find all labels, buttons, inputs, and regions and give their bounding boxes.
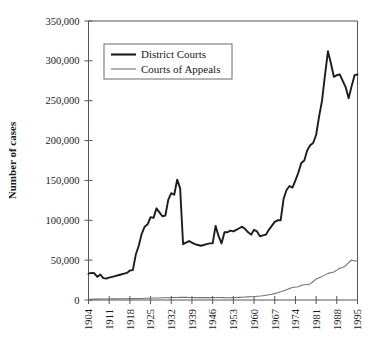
y-axis-title: Number of cases bbox=[6, 121, 18, 199]
legend-label-courts-of-appeals: Courts of Appeals bbox=[141, 63, 220, 75]
y-tick-label: 350,000 bbox=[45, 16, 79, 27]
x-tick-label: 1960 bbox=[249, 309, 260, 330]
series-line-courts-of-appeals bbox=[89, 260, 358, 299]
y-tick-label: 300,000 bbox=[45, 55, 79, 66]
line-chart: 050,000100,000150,000200,000250,000300,0… bbox=[0, 0, 373, 352]
x-tick-label: 1981 bbox=[311, 309, 322, 330]
x-tick-label: 1953 bbox=[228, 309, 239, 330]
y-axis-tick-labels: 050,000100,000150,000200,000250,000300,0… bbox=[45, 16, 79, 306]
x-tick-label: 1995 bbox=[352, 309, 363, 330]
x-tick-label: 1925 bbox=[145, 309, 156, 330]
x-tick-label: 1911 bbox=[104, 309, 115, 330]
x-tick-label: 1967 bbox=[270, 309, 281, 330]
x-tick-label: 1918 bbox=[125, 309, 136, 330]
x-tick-label: 1974 bbox=[290, 308, 301, 330]
chart-figure: 050,000100,000150,000200,000250,000300,0… bbox=[0, 0, 373, 352]
y-tick-label: 0 bbox=[74, 295, 79, 306]
y-tick-label: 150,000 bbox=[45, 175, 79, 186]
x-tick-label: 1904 bbox=[83, 308, 94, 330]
x-axis-tick-labels: 1904191119181925193219391946195319601967… bbox=[83, 308, 363, 330]
x-tick-label: 1939 bbox=[187, 309, 198, 330]
y-tick-label: 50,000 bbox=[51, 255, 80, 266]
x-tick-label: 1988 bbox=[332, 309, 343, 330]
y-tick-label: 100,000 bbox=[45, 215, 79, 226]
y-tick-label: 200,000 bbox=[45, 135, 79, 146]
legend-label-district-courts: District Courts bbox=[141, 48, 206, 60]
series-line-district-courts bbox=[89, 51, 358, 278]
x-tick-label: 1946 bbox=[207, 309, 218, 330]
y-tick-label: 250,000 bbox=[45, 95, 79, 106]
chart-legend: District Courts Courts of Appeals bbox=[104, 44, 232, 79]
x-tick-label: 1932 bbox=[166, 309, 177, 330]
